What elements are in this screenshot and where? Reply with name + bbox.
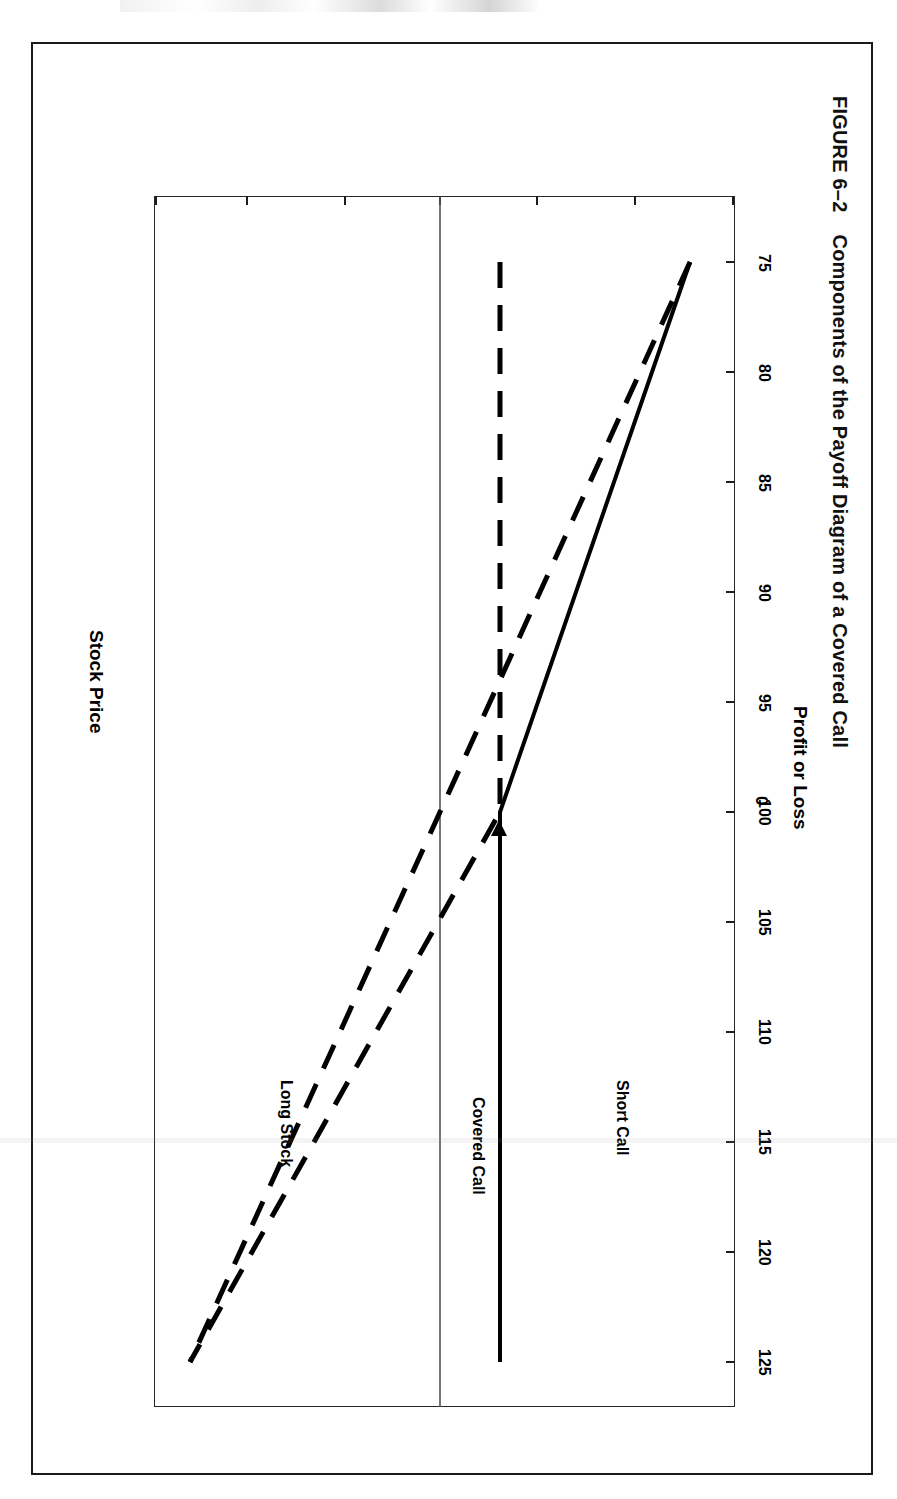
x-axis-ticks xyxy=(726,262,735,1362)
x-tick-label-125: 125 xyxy=(755,1349,773,1376)
series-covered-call-line xyxy=(500,262,690,1362)
x-axis-title: Stock Price xyxy=(85,630,107,734)
y-axis-ticks xyxy=(156,196,733,205)
x-tick-label-85: 85 xyxy=(755,474,773,492)
scan-noise-artifact xyxy=(120,0,540,12)
x-tick-label-105: 105 xyxy=(755,909,773,936)
x-tick-label-115: 115 xyxy=(755,1129,773,1155)
x-tick-label-100: 100 xyxy=(755,799,773,826)
x-tick-label-80: 80 xyxy=(755,364,773,382)
x-tick-label-75: 75 xyxy=(755,254,773,272)
series-label-short-call: Short Call xyxy=(613,1080,631,1156)
figure-border-box: FIGURE 6–2Components of the Payoff Diagr… xyxy=(31,42,873,1475)
series-label-covered-call: Covered Call xyxy=(469,1097,487,1195)
figure-number: FIGURE 6–2 xyxy=(829,96,851,212)
y-axis-title: Profit or Loss xyxy=(789,706,811,830)
x-tick-label-120: 120 xyxy=(755,1239,773,1266)
plot-area: 75 80 85 90 95 100 105 110 115 120 125 S… xyxy=(154,196,735,1407)
series-label-long-stock: Long Stock xyxy=(277,1080,295,1167)
x-tick-label-110: 110 xyxy=(755,1019,773,1045)
figure-caption: FIGURE 6–2Components of the Payoff Diagr… xyxy=(828,96,851,748)
figure-title: Components of the Payoff Diagram of a Co… xyxy=(829,234,851,747)
series-short-call-line xyxy=(190,262,500,1362)
page-canvas: FIGURE 6–2Components of the Payoff Diagr… xyxy=(0,0,897,1499)
payoff-diagram-svg xyxy=(154,196,735,1407)
x-tick-label-90: 90 xyxy=(755,584,773,602)
x-tick-label-95: 95 xyxy=(755,694,773,712)
rotated-figure-stage: FIGURE 6–2Components of the Payoff Diagr… xyxy=(33,44,875,1477)
